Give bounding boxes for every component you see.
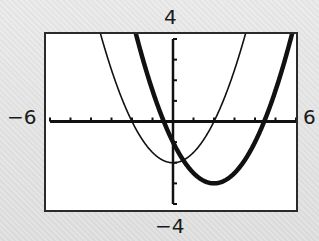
calculator-screen bbox=[44, 32, 298, 212]
xmin-label: −6 bbox=[7, 107, 36, 127]
curves bbox=[100, 34, 292, 183]
axes bbox=[50, 39, 296, 204]
xmax-label: 6 bbox=[303, 107, 316, 127]
ymax-label: 4 bbox=[164, 7, 177, 27]
thick-parabola-curve bbox=[136, 34, 293, 183]
ymin-label: −4 bbox=[155, 216, 184, 236]
graph-plot bbox=[46, 34, 296, 210]
